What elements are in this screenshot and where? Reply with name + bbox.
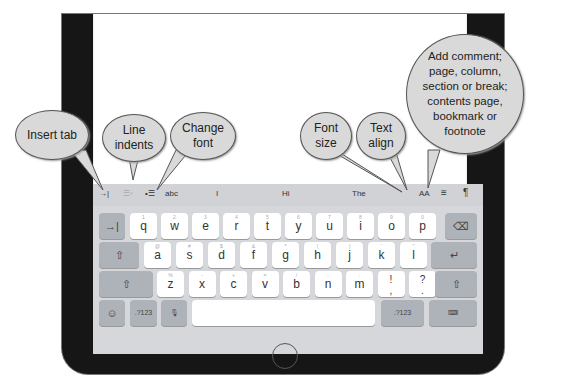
shift-right-key[interactable]: ⇧ [435,271,477,297]
key-hint: # [176,243,203,249]
font-size-button[interactable]: AA [419,189,430,198]
delete-key[interactable]: ⌫ [445,213,477,239]
callout-font-size: Font size [300,112,352,160]
key-hint: 8 [347,214,374,220]
key-g[interactable]: *g [272,242,299,268]
key-p[interactable]: 0p [409,213,436,239]
key-v[interactable]: =v [252,271,279,297]
key-x[interactable]: -x [189,271,216,297]
key-hint: ( [304,243,331,249]
key-f[interactable]: &f [240,242,267,268]
key-h[interactable]: (h [304,242,331,268]
emoji-key[interactable]: ☺ [99,300,125,326]
keyboard: →| ☰‹ •☰ abc I Hi The AA ≡ ¶ →| 1q2w3e4r… [93,184,483,354]
key-m[interactable]: :m [346,271,373,297]
key-b[interactable]: /b [283,271,310,297]
callout-insert-tab: Insert tab [15,110,89,160]
suggestion-1[interactable]: I [216,189,218,198]
home-button[interactable] [272,343,298,369]
key-hint: 2 [161,214,188,220]
hide-keyboard-key[interactable]: ⌨ [429,300,477,326]
callout-text-align: Text align [356,112,406,160]
numbers-key-left[interactable]: .?123 [130,300,157,326]
key-hint: 6 [285,214,312,220]
suggestion-2[interactable]: Hi [282,189,290,198]
key-?.[interactable]: ? . [409,271,436,297]
key-d[interactable]: $d [208,242,235,268]
key-hint: 5 [254,214,281,220]
key-hint: 0 [409,214,436,220]
key-hint: ' [368,243,395,249]
key-hint: % [157,272,184,278]
key-!,[interactable]: ! , [378,271,405,297]
key-hint: 7 [316,214,343,220]
key-z[interactable]: %z [157,271,184,297]
screen-margin-left [93,14,117,184]
key-i[interactable]: 8i [347,213,374,239]
key-hint: * [272,243,299,249]
key-hint: - [189,272,216,278]
key-hint: 4 [223,214,250,220]
key-t[interactable]: 5t [254,213,281,239]
key-w[interactable]: 2w [161,213,188,239]
key-hint: ) [336,243,363,249]
space-bar[interactable] [192,300,375,326]
key-y[interactable]: 6y [285,213,312,239]
shortcut-bar: →| ☰‹ •☰ abc I Hi The AA ≡ ¶ [93,184,483,206]
suggestion-3[interactable]: The [352,189,366,198]
return-key[interactable]: ↵ [431,242,477,268]
key-hint: = [252,272,279,278]
change-font-button[interactable]: abc [165,189,178,198]
tab-key[interactable]: →| [99,213,125,239]
outdent-icon[interactable]: ☰‹ [123,189,133,198]
document-canvas[interactable] [116,14,450,184]
paragraph-icon[interactable]: ¶ [463,187,468,198]
key-hint: @ [144,243,171,249]
insert-tab-icon[interactable]: →| [99,189,109,198]
key-hint: & [240,243,267,249]
key-j[interactable]: )j [336,242,363,268]
key-hint: 1 [130,214,157,220]
key-hint: $ [208,243,235,249]
key-k[interactable]: 'k [368,242,395,268]
key-label: ! , [378,271,405,296]
key-hint: : [346,272,373,278]
key-label: ? . [409,271,436,296]
key-hint: 3 [192,214,219,220]
caps-lock-key[interactable]: ⇧ [99,242,139,268]
key-s[interactable]: #s [176,242,203,268]
key-l[interactable]: "l [400,242,427,268]
key-n[interactable]: ;n [315,271,342,297]
key-hint: 9 [378,214,405,220]
numbers-key-right[interactable]: .?123 [381,300,424,326]
key-hint: + [220,272,247,278]
key-a[interactable]: @a [144,242,171,268]
shift-left-key[interactable]: ⇧ [99,271,153,297]
text-align-icon[interactable]: ≡ [441,187,447,198]
key-u[interactable]: 7u [316,213,343,239]
callout-line-indents: Line indents [102,114,166,162]
dictation-key[interactable]: 🎙 [161,300,187,326]
callout-change-font: Change font [170,112,236,160]
key-e[interactable]: 3e [192,213,219,239]
key-o[interactable]: 9o [378,213,405,239]
key-c[interactable]: +c [220,271,247,297]
key-q[interactable]: 1q [130,213,157,239]
key-hint: / [283,272,310,278]
key-r[interactable]: 4r [223,213,250,239]
indent-icon[interactable]: •☰ [145,189,155,198]
key-hint: ; [315,272,342,278]
key-hint: " [400,243,427,249]
callout-paragraph-options: Add comment; page, column, section or br… [406,34,524,154]
